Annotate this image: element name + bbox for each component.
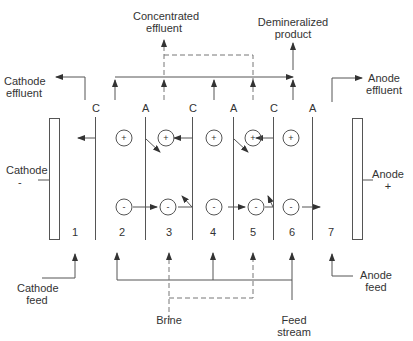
svg-text:+: + (288, 133, 293, 143)
cathode-label: Cathode- (6, 164, 44, 188)
svg-text:+: + (121, 133, 126, 143)
anode-electrode (353, 119, 363, 240)
cathode-electrode (50, 119, 60, 240)
compartment-7: 7 (328, 226, 334, 238)
compartment-1: 1 (72, 226, 78, 238)
compartment-3: 3 (166, 226, 172, 238)
membrane-label-c3: C (270, 102, 278, 114)
concentrated-effluent-label: Concentratedeffluent (133, 10, 195, 34)
cathode-feed-label: Cathodefeed (17, 282, 57, 306)
anode-feed-label: Anodefeed (356, 269, 396, 293)
membrane-label-a1: A (142, 102, 149, 114)
svg-text:-: - (213, 202, 216, 212)
anode-label: Anode+ (368, 168, 408, 192)
svg-text:+: + (163, 133, 168, 143)
membrane-label-c1: C (92, 102, 100, 114)
svg-text:+: + (250, 133, 255, 143)
compartment-5: 5 (250, 226, 256, 238)
compartment-2: 2 (119, 226, 125, 238)
svg-text:+: + (211, 133, 216, 143)
svg-text:-: - (167, 202, 170, 212)
svg-text:-: - (255, 202, 258, 212)
feed-stream-label: Feedstream (276, 314, 312, 338)
membrane-label-c2: C (189, 102, 197, 114)
cathode-effluent-label: Cathodeeffluent (4, 75, 44, 99)
demineralized-product-label: Demineralizedproduct (255, 16, 331, 40)
electrodialysis-diagram: +++++ ----- (0, 0, 413, 341)
membrane-label-a3: A (309, 102, 316, 114)
compartment-4: 4 (210, 226, 216, 238)
membrane-label-a2: A (230, 102, 237, 114)
anode-effluent-label: Anodeeffluent (364, 72, 404, 96)
compartment-6: 6 (289, 226, 295, 238)
brine-label: Brine (152, 314, 186, 326)
svg-text:-: - (123, 202, 126, 212)
svg-text:-: - (290, 202, 293, 212)
